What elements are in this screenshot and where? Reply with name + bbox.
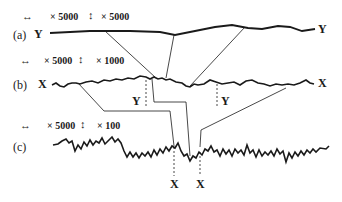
panel-b-marker-y-2: Y <box>221 95 230 107</box>
horizontal-arrow-icon: ↔ <box>20 120 31 131</box>
profile-a <box>50 25 315 35</box>
panel-b-left-end: X <box>38 78 47 90</box>
panel-c-marker-x-1: X <box>170 178 179 190</box>
vertical-arrow-icon: ↕ <box>80 119 86 130</box>
panel-b-marker-y-1: Y <box>132 95 141 107</box>
panel-a-right-end: Y <box>318 23 327 35</box>
panel-a-label: (a) <box>13 29 26 41</box>
panel-b-vertical-scale: × 1000 <box>96 56 124 66</box>
panel-a-vertical-scale: × 5000 <box>101 12 129 22</box>
diagram-canvas <box>0 0 342 202</box>
panel-b-right-end: X <box>318 77 327 89</box>
panel-b-label: (b) <box>13 79 27 91</box>
vertical-arrow-icon: ↕ <box>88 10 94 21</box>
panel-a-left-end: Y <box>34 28 43 40</box>
panel-a-horizontal-scale: × 5000 <box>50 12 78 22</box>
panel-b-horizontal-scale: × 5000 <box>44 56 72 66</box>
profile-b <box>52 76 314 87</box>
profile-c <box>53 137 329 162</box>
connector-b-c-1 <box>78 83 174 146</box>
horizontal-arrow-icon: ↔ <box>20 55 31 66</box>
panel-c-marker-x-2: X <box>196 178 205 190</box>
vertical-arrow-icon: ↕ <box>78 54 84 65</box>
connector-a-b-3 <box>190 27 245 86</box>
connector-a-b-2 <box>166 35 174 78</box>
horizontal-arrow-icon: ↔ <box>22 11 33 22</box>
panel-c-vertical-scale: × 100 <box>97 121 120 131</box>
panel-c-label: (c) <box>13 141 26 153</box>
connector-b-c-3 <box>200 88 286 147</box>
panel-c-horizontal-scale: × 5000 <box>47 121 75 131</box>
